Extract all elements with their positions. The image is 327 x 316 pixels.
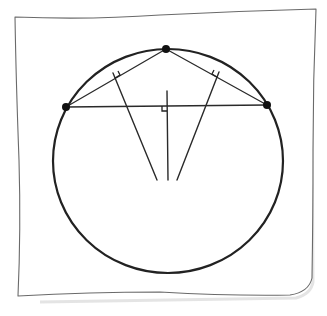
right-point-dot (263, 101, 271, 109)
left-point-dot (62, 103, 70, 111)
circle-construction-diagram (0, 0, 327, 316)
top-point-dot (162, 45, 170, 53)
bisector-left-right (167, 91, 168, 180)
